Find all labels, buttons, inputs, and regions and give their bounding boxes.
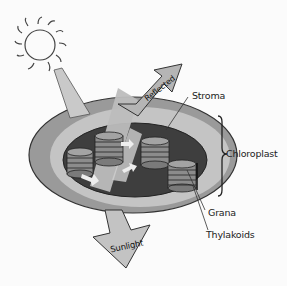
thylakoids-label: Thylakoids [206, 229, 255, 240]
stroma-label: Stroma [192, 90, 225, 101]
chloroplast-diagram [0, 0, 287, 286]
chloroplast-label: Chloroplast [226, 148, 278, 159]
sun-icon [15, 17, 66, 71]
grana-label: Grana [208, 207, 236, 218]
incoming-light-beam [54, 68, 90, 118]
